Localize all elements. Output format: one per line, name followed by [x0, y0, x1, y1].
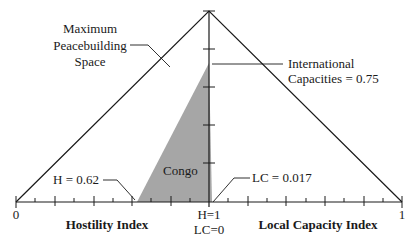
tick-label-1: 1: [399, 207, 406, 222]
center-label-lc: LC=0: [194, 222, 224, 237]
intl-capacity-label-1: International: [288, 56, 355, 71]
max-space-label-1: Maximum: [63, 21, 117, 36]
max-space-label-2: Peacebuilding: [53, 38, 127, 53]
local-capacity-index-title: Local Capacity Index: [258, 217, 378, 232]
congo-region: [137, 63, 212, 202]
intl-capacity-label-2: Capacities = 0.75: [288, 71, 379, 86]
max-space-label-3: Space: [74, 54, 105, 69]
congo-label: Congo: [163, 163, 198, 178]
tick-label-0: 0: [13, 207, 20, 222]
lc-value-leader: [213, 178, 250, 202]
h-value-leader: [103, 180, 135, 200]
hostility-value-label: H = 0.62: [53, 172, 99, 187]
local-capacity-value-label: LC = 0.017: [252, 170, 312, 185]
peacebuilding-diagram: Maximum Peacebuilding Space Internationa…: [0, 0, 416, 246]
center-label-h: H=1: [197, 207, 220, 222]
hostility-index-title: Hostility Index: [66, 217, 149, 232]
